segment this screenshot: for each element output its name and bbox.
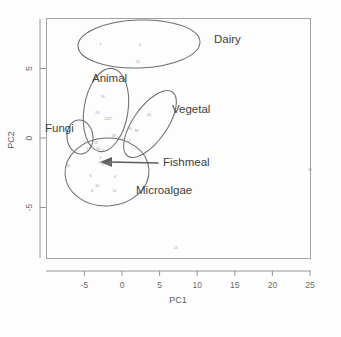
cluster-label-microalgae: Microalgae xyxy=(136,184,192,196)
x-axis-title: PC1 xyxy=(169,295,187,305)
data-point: 7 xyxy=(99,43,101,47)
data-point: 27 xyxy=(108,117,112,121)
cluster-label-vegetal: Vegetal xyxy=(172,103,210,115)
x-tick-group: -50510152025 xyxy=(81,271,315,290)
cluster-label-group: DairyAnimalVegetalFungiFishmealMicroalga… xyxy=(45,33,241,196)
data-point: 26 xyxy=(128,127,132,131)
data-point: 32 xyxy=(66,164,70,168)
data-point: 28 xyxy=(112,134,116,138)
cluster-label-fishmeal: Fishmeal xyxy=(163,156,210,168)
data-point: 18 xyxy=(134,129,138,133)
x-tick-label: 5 xyxy=(157,280,162,290)
y-tick-group: 50-5 xyxy=(24,66,46,211)
y-tick-label: 5 xyxy=(24,66,34,71)
plot-canvas: -50510152025 PC1 50-5 PC2 73221924252720… xyxy=(0,0,341,337)
data-point: 23 xyxy=(94,141,98,145)
data-point: 31 xyxy=(308,168,312,172)
cluster-label-animal: Animal xyxy=(92,72,127,84)
data-point: 29 xyxy=(109,161,113,165)
y-axis: 50-5 PC2 xyxy=(6,19,46,258)
data-point: 6 xyxy=(89,174,91,178)
data-point: 21 xyxy=(86,147,90,151)
y-axis-title: PC2 xyxy=(6,131,16,149)
data-point: 8 xyxy=(91,189,93,193)
cluster-label-fungi: Fungi xyxy=(45,122,74,134)
data-point: 4 xyxy=(114,175,116,179)
pca-scatter-figure: -50510152025 PC1 50-5 PC2 73221924252720… xyxy=(0,0,341,337)
x-tick-label: 20 xyxy=(268,280,278,290)
y-tick-label: -5 xyxy=(24,203,34,211)
data-point: 1 xyxy=(99,156,101,160)
data-point: 19 xyxy=(100,95,104,99)
x-axis: -50510152025 PC1 xyxy=(46,271,315,305)
data-point: 16 xyxy=(120,138,124,142)
y-tick-label: 0 xyxy=(24,135,34,140)
ellipse-vegetal xyxy=(114,82,187,165)
data-point: 3 xyxy=(139,43,141,47)
x-tick-label: 25 xyxy=(305,280,315,290)
x-tick-label: 15 xyxy=(230,280,240,290)
data-point: 9 xyxy=(101,163,103,167)
cluster-label-dairy: Dairy xyxy=(214,33,241,45)
data-point: 2 xyxy=(101,149,103,153)
data-point: 30 xyxy=(96,147,100,151)
data-point: 20 xyxy=(147,113,151,117)
data-point: 17 xyxy=(127,139,131,143)
data-point: 5 xyxy=(98,161,100,165)
arrow-shaft xyxy=(110,162,158,163)
data-point: 14 xyxy=(173,246,177,250)
x-tick-label: -5 xyxy=(81,280,89,290)
ellipse-microalgae xyxy=(63,136,150,208)
x-tick-label: 0 xyxy=(120,280,125,290)
data-point: 12 xyxy=(112,189,116,193)
x-tick-label: 10 xyxy=(192,280,202,290)
data-point: 10 xyxy=(95,184,99,188)
data-point: 22 xyxy=(136,60,140,64)
data-point: 24 xyxy=(95,111,99,115)
